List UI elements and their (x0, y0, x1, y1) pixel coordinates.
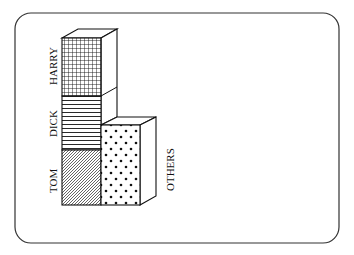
segment-harry (62, 38, 101, 96)
diagram-canvas: TOM DICK HARRY OTHERS (0, 0, 354, 255)
label-dick: DICK (47, 110, 59, 137)
bar-others (101, 117, 156, 205)
label-others: OTHERS (164, 148, 176, 191)
segment-others (101, 125, 140, 205)
label-harry: HARRY (47, 47, 59, 85)
segment-tom (62, 150, 101, 205)
label-tom: TOM (47, 169, 59, 193)
segment-dick (62, 96, 101, 150)
